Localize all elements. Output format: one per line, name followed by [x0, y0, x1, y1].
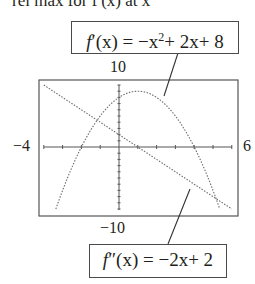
f-double-prime-label-box: f″(x) = −2x+ 2 [89, 244, 227, 278]
xmin-label: −4 [13, 137, 30, 155]
equation-part: (x) = −2x+ 2 [116, 249, 213, 270]
ymax-label: 10 [110, 58, 126, 76]
prime-mark: ″ [108, 249, 116, 270]
ymin-label: −10 [100, 219, 125, 237]
xmax-label: 6 [243, 137, 251, 155]
viewing-window [39, 80, 238, 216]
f-prime-label-box: f′(x) = −x2+ 2x+ 8 [71, 21, 239, 54]
top-leader-line [164, 53, 178, 96]
equation-part: (x) = −x [96, 31, 159, 52]
parabola-curve-f-prime [56, 91, 220, 209]
equation-tail: + 2x+ 8 [164, 31, 223, 52]
